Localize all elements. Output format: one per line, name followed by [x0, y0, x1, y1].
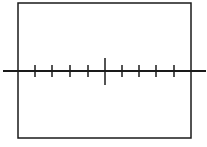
number-line-diagram — [0, 0, 207, 147]
